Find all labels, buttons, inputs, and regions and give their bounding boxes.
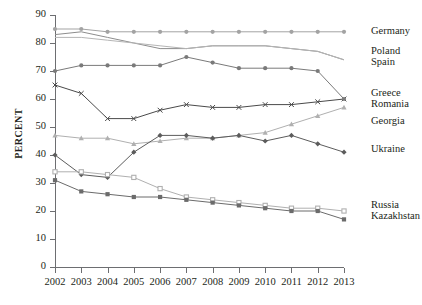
legend-item-georgia: Georgia: [371, 115, 405, 127]
data-point-circle: [105, 30, 109, 34]
data-point-circle: [211, 61, 215, 65]
data-point-square-open: [53, 170, 57, 174]
data-point-square-open: [158, 187, 162, 191]
data-point-circle: [79, 27, 83, 31]
series-line: [55, 37, 344, 59]
data-point-circle: [158, 30, 162, 34]
data-point-square-open: [79, 170, 83, 174]
legend-item-poland: Poland: [371, 45, 400, 57]
data-point-x: [79, 91, 84, 96]
series-line: [55, 172, 344, 211]
data-point-circle: [211, 30, 215, 34]
data-point-diamond: [157, 133, 162, 138]
data-point-circle: [342, 30, 346, 34]
legend-item-greece: Greece: [371, 87, 409, 99]
legend-group: Georgia: [371, 115, 405, 127]
data-point-diamond: [184, 133, 189, 138]
data-point-circle: [184, 30, 188, 34]
legend-item-kazakhstan: Kazakhstan: [371, 210, 420, 222]
series-ukraine: [52, 133, 346, 180]
series-romania: [53, 55, 346, 101]
legend-item-romania: Romania: [371, 98, 409, 110]
data-point-square-filled: [105, 192, 109, 196]
series-layer: [0, 0, 422, 305]
series-poland: [55, 32, 344, 60]
data-point-diamond: [315, 141, 320, 146]
series-line: [55, 180, 344, 219]
legend-group: PolandSpain: [371, 45, 400, 68]
data-point-square-open: [132, 175, 136, 179]
data-point-circle: [132, 63, 136, 67]
data-point-circle: [237, 30, 241, 34]
data-point-square-filled: [79, 189, 83, 193]
data-point-square-filled: [263, 206, 267, 210]
legend-group: Germany: [371, 25, 410, 37]
series-line: [55, 135, 344, 177]
data-point-square-filled: [289, 209, 293, 213]
series-greece: [53, 83, 347, 121]
data-point-square-filled: [316, 209, 320, 213]
data-point-circle: [79, 63, 83, 67]
data-point-circle: [158, 63, 162, 67]
series-line: [55, 85, 344, 119]
legend-group: GreeceRomania: [371, 87, 409, 110]
data-point-triangle: [341, 105, 346, 110]
data-point-circle: [263, 66, 267, 70]
data-point-square-filled: [184, 198, 188, 202]
data-point-diamond: [289, 133, 294, 138]
data-point-circle: [289, 30, 293, 34]
series-spain: [55, 37, 344, 59]
line-chart: PERCENT 0102030405060708090 200220032004…: [0, 0, 422, 305]
legend-item-russia: Russia: [371, 199, 420, 211]
data-point-square-filled: [237, 203, 241, 207]
data-point-square-open: [342, 209, 346, 213]
legend-group: Ukraine: [371, 143, 405, 155]
series-line: [55, 32, 344, 60]
legend-group: RussiaKazakhstan: [371, 199, 420, 222]
data-point-circle: [132, 30, 136, 34]
data-point-diamond: [263, 138, 268, 143]
series-line: [55, 29, 344, 32]
series-georgia: [52, 105, 346, 146]
legend-item-spain: Spain: [371, 56, 400, 68]
series-kazakhstan: [53, 178, 346, 221]
data-point-circle: [53, 69, 57, 73]
data-point-square-filled: [53, 178, 57, 182]
data-point-square-filled: [132, 195, 136, 199]
legend-item-germany: Germany: [371, 25, 410, 37]
legend-item-ukraine: Ukraine: [371, 143, 405, 155]
data-point-diamond: [341, 150, 346, 155]
data-point-circle: [316, 69, 320, 73]
data-point-circle: [237, 66, 241, 70]
data-point-circle: [184, 55, 188, 59]
data-point-circle: [53, 27, 57, 31]
data-point-square-open: [105, 173, 109, 177]
data-point-circle: [105, 63, 109, 67]
data-point-square-filled: [211, 201, 215, 205]
data-point-circle: [316, 30, 320, 34]
series-germany: [53, 27, 346, 34]
data-point-square-filled: [342, 217, 346, 221]
data-point-x: [53, 83, 58, 88]
data-point-circle: [289, 66, 293, 70]
data-point-square-filled: [158, 195, 162, 199]
data-point-circle: [342, 97, 346, 101]
data-point-circle: [263, 30, 267, 34]
series-line: [55, 57, 344, 99]
